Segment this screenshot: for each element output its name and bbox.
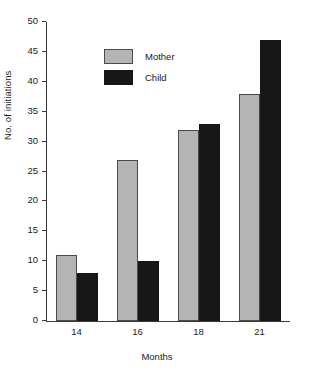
y-tick-label: 35: [27, 105, 38, 116]
x-tick-label-18: 18: [168, 326, 229, 337]
y-tick-0: 0: [42, 320, 46, 321]
bar-child-16: [138, 261, 159, 321]
x-tick-label-14: 14: [46, 326, 107, 337]
x-axis-title: Months: [0, 351, 314, 362]
caption-sliver: [4, 365, 310, 370]
y-tick-label: 20: [27, 194, 38, 205]
legend-item-mother: Mother: [104, 46, 214, 67]
y-tick-20: 20: [42, 200, 46, 201]
y-tick-45: 45: [42, 51, 46, 52]
y-tick-label: 10: [27, 254, 38, 265]
legend-label: Mother: [145, 51, 175, 62]
y-axis-title: No. of initiations: [2, 20, 13, 140]
y-tick-5: 5: [42, 290, 46, 291]
legend-item-child: Child: [104, 67, 214, 88]
bar-child-21: [260, 40, 281, 321]
bar-mother-14: [56, 255, 77, 321]
chart-legend: MotherChild: [104, 46, 214, 88]
bar-mother-18: [178, 130, 199, 321]
y-tick-label: 40: [27, 75, 38, 86]
y-tick-label: 45: [27, 45, 38, 56]
y-tick-label: 15: [27, 224, 38, 235]
y-tick-30: 30: [42, 141, 46, 142]
x-tick-label-21: 21: [229, 326, 290, 337]
bar-chart-figure: No. of initiations 05101520253035404550 …: [0, 0, 314, 373]
mother-swatch: [104, 49, 133, 64]
y-tick-15: 15: [42, 230, 46, 231]
plot-area: 05101520253035404550 14161821 MotherChil…: [46, 22, 290, 321]
y-tick-label: 25: [27, 165, 38, 176]
y-axis-line: [46, 22, 47, 322]
bar-child-14: [77, 273, 98, 321]
y-tick-40: 40: [42, 81, 46, 82]
bar-mother-16: [117, 160, 138, 321]
child-swatch: [104, 70, 133, 85]
y-tick-label: 50: [27, 15, 38, 26]
y-tick-25: 25: [42, 171, 46, 172]
bar-mother-21: [239, 94, 260, 321]
bar-child-18: [199, 124, 220, 321]
legend-label: Child: [145, 72, 167, 83]
y-tick-label: 5: [33, 284, 38, 295]
y-tick-label: 0: [33, 314, 38, 325]
y-tick-35: 35: [42, 111, 46, 112]
y-tick-10: 10: [42, 260, 46, 261]
x-tick-label-16: 16: [107, 326, 168, 337]
y-tick-50: 50: [42, 21, 46, 22]
x-axis-line: [46, 321, 290, 322]
y-tick-label: 30: [27, 135, 38, 146]
